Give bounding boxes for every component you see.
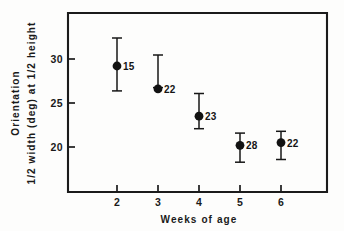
data-marker [154, 85, 163, 94]
data-series: 15 22 23 28 [112, 38, 299, 162]
data-point-group: 15 [112, 38, 135, 91]
data-point-label: 22 [164, 84, 176, 95]
data-marker [236, 141, 245, 150]
y-tick-label: 20 [51, 141, 63, 153]
data-point-label: 15 [123, 61, 135, 72]
y-tick-label: 25 [51, 97, 63, 109]
data-point-group: 22 [276, 131, 299, 159]
data-marker [195, 112, 204, 121]
y-axis-title-primary: Orientation [10, 70, 21, 135]
x-tick-label: 5 [237, 196, 243, 208]
data-point-label: 28 [246, 140, 258, 151]
data-point-label: 22 [287, 138, 299, 149]
data-point-group: 23 [194, 94, 217, 129]
y-tick-labels: 30 25 20 [51, 53, 63, 153]
x-tick-label: 6 [278, 196, 284, 208]
y-tick-label: 30 [51, 53, 63, 65]
data-point-group: 28 [235, 133, 258, 162]
x-tick-label: 3 [155, 196, 161, 208]
data-point-label: 23 [205, 111, 217, 122]
plot-frame [68, 13, 327, 192]
x-tick-label: 2 [114, 196, 120, 208]
data-marker [113, 62, 122, 71]
chart-figure: 30 25 20 2 3 4 5 6 Weeks of age Orientat… [0, 0, 344, 231]
x-tick-label: 4 [196, 196, 202, 208]
y-axis-title-secondary: 1/2 width (deg) at 1/2 height [26, 21, 37, 184]
x-tick-labels: 2 3 4 5 6 [114, 196, 284, 208]
x-axis-title: Weeks of age [161, 214, 238, 225]
data-point-group: 22 [153, 55, 176, 95]
data-marker [277, 138, 286, 147]
scatter-plot-canvas: 30 25 20 2 3 4 5 6 Weeks of age Orientat… [0, 0, 344, 231]
